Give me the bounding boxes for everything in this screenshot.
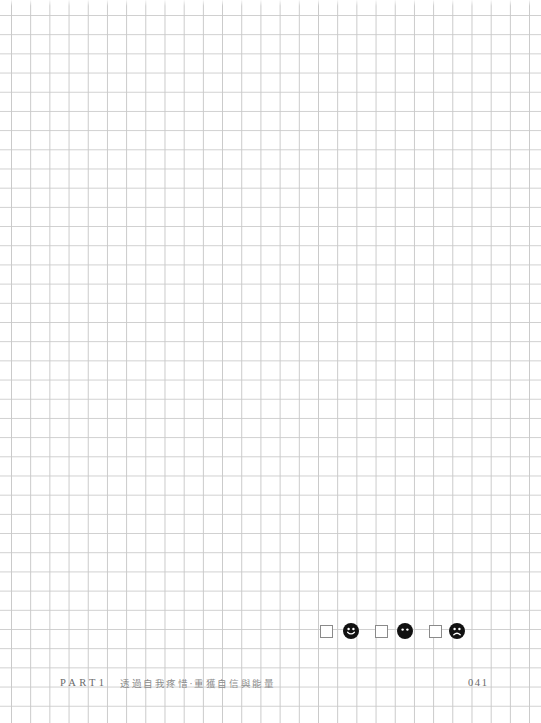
happy-face-icon — [343, 623, 359, 639]
sad-face-icon — [449, 623, 465, 639]
footer-part-label: PART1 — [60, 677, 108, 689]
grid-paper-page: PART1 透過自我疼惜‧重獲自信與能量 041 — [0, 0, 541, 723]
mood-checkbox-sad[interactable] — [429, 625, 442, 638]
neutral-face-icon — [397, 623, 413, 639]
page-number: 041 — [468, 677, 489, 689]
mood-checkbox-happy[interactable] — [320, 625, 333, 638]
footer-chapter-title: 透過自我疼惜‧重獲自信與能量 — [120, 678, 275, 689]
mood-checkbox-neutral[interactable] — [375, 625, 388, 638]
